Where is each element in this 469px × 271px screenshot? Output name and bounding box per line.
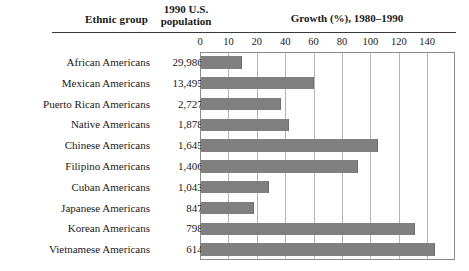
growth-chart-figure: Ethnic group 1990 U.S. population Growth… [0, 0, 469, 271]
table-row: Filipino Americans1,406,770 [0, 156, 469, 177]
row-label-ethnic-group: Japanese Americans [10, 202, 150, 215]
table-row: Cuban Americans1,043,932 [0, 177, 469, 198]
growth-bar [201, 223, 415, 236]
x-tick-label-80: 80 [329, 36, 355, 48]
growth-bar [201, 181, 269, 194]
row-label-ethnic-group: Vietnamese Americans [10, 243, 150, 256]
column-header-population: 1990 U.S. population [150, 3, 222, 27]
x-tick-label-100: 100 [357, 36, 383, 48]
table-row: African Americans29,986,060 [0, 52, 469, 73]
growth-bar [201, 98, 281, 111]
table-row: Native Americans1,878,285 [0, 114, 469, 135]
row-label-ethnic-group: Mexican Americans [10, 77, 150, 90]
x-tick-label-60: 60 [301, 36, 327, 48]
row-label-ethnic-group: Cuban Americans [10, 181, 150, 194]
table-row: Chinese Americans1,645,472 [0, 135, 469, 156]
table-row: Puerto Rican Americans2,727,754 [0, 94, 469, 115]
row-label-ethnic-group: Korean Americans [10, 222, 150, 235]
column-header-population-line1: 1990 U.S. [150, 3, 222, 15]
column-header-ethnic-group: Ethnic group [52, 13, 148, 25]
x-tick-label-10: 10 [215, 36, 241, 48]
row-label-ethnic-group: Native Americans [10, 118, 150, 131]
growth-bar [201, 56, 242, 69]
growth-bar [201, 77, 314, 90]
x-tick-label-0: 0 [187, 36, 213, 48]
row-label-ethnic-group: Chinese Americans [10, 139, 150, 152]
table-row: Korean Americans798,849 [0, 218, 469, 239]
growth-bar [201, 243, 435, 256]
growth-bar [201, 202, 254, 215]
header-divider-rule [52, 32, 456, 33]
column-header-growth: Growth (%), 1980–1990 [232, 12, 462, 24]
x-axis-tick-labels: 01020406080100120140 [0, 36, 469, 50]
chart-header: Ethnic group 1990 U.S. population Growth… [0, 0, 469, 33]
x-tick-label-140: 140 [414, 36, 440, 48]
row-label-ethnic-group: Filipino Americans [10, 160, 150, 173]
x-tick-label-40: 40 [272, 36, 298, 48]
growth-bar [201, 139, 378, 152]
growth-bar [201, 160, 358, 173]
table-row: Vietnamese Americans614,547 [0, 239, 469, 260]
column-header-population-line2: population [150, 15, 222, 27]
row-label-ethnic-group: Puerto Rican Americans [10, 98, 150, 111]
x-tick-label-120: 120 [386, 36, 412, 48]
x-tick-label-20: 20 [244, 36, 270, 48]
table-row: Japanese Americans847,562 [0, 198, 469, 219]
table-row: Mexican Americans13,495,938 [0, 73, 469, 94]
growth-bar [201, 119, 289, 132]
row-label-ethnic-group: African Americans [10, 56, 150, 69]
chart-rows: African Americans29,986,060Mexican Ameri… [0, 52, 469, 260]
